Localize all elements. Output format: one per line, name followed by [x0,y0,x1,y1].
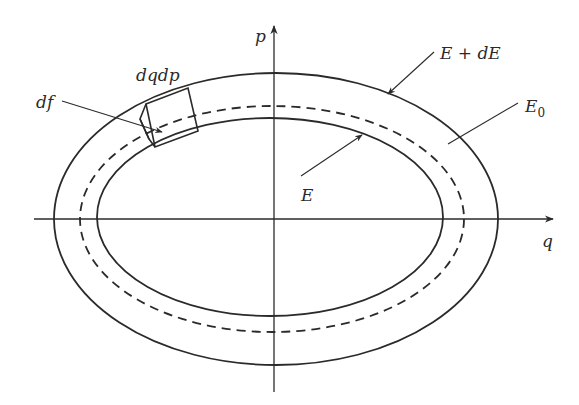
outer-energy-label: E + dE [439,43,501,63]
reference-energy-label: E0 [524,96,545,120]
q-axis-label: q [542,231,553,251]
inner-energy-shell [97,118,443,316]
inner-energy-label: E [300,185,314,205]
reference-energy-base: E [524,96,538,116]
p-axis-label: p [255,26,266,46]
surface-element-label: df [36,92,56,112]
volume-element-label: dqdp [136,65,180,85]
phase-space-diagram: p q E + dE E0 E dqdp df [0,0,579,405]
outer-energy-pointer [388,52,434,94]
reference-energy-subscript: 0 [537,106,545,120]
inner-energy-pointer [301,135,362,176]
reference-energy-pointer [448,103,518,144]
